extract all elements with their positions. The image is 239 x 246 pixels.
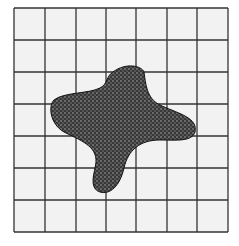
grid-figure [0,0,239,246]
